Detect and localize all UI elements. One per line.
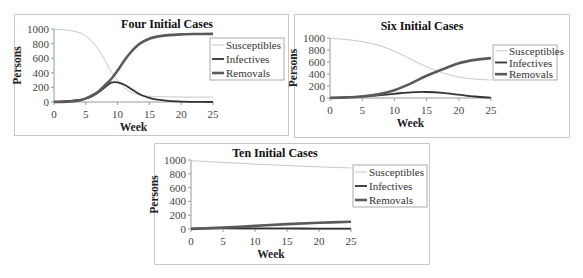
x-tick-label: 5: [220, 235, 226, 247]
x-tick-label: 25: [346, 235, 358, 247]
chart-ten-initial-cases: Ten Initial Cases02004006008001000051015…: [154, 143, 430, 265]
x-tick-label: 10: [250, 235, 262, 247]
y-tick-label: 200: [170, 209, 187, 221]
y-axis-title: Persons: [148, 175, 160, 214]
x-tick-label: 20: [314, 235, 326, 247]
y-tick-label: 800: [170, 168, 187, 180]
x-tick-label: 0: [188, 235, 194, 247]
legend-label: Removals: [369, 194, 413, 206]
y-tick-label: 0: [181, 223, 187, 235]
y-tick-label: 1000: [164, 154, 187, 166]
legend-label: Susceptibles: [369, 166, 424, 178]
legend-label: Infectives: [369, 180, 412, 192]
series-line-susceptibles: [191, 161, 351, 168]
chart-title: Ten Initial Cases: [232, 146, 318, 160]
y-tick-label: 400: [170, 195, 187, 207]
y-tick-label: 600: [170, 182, 187, 194]
x-tick-label: 15: [282, 235, 294, 247]
x-axis-title: Week: [257, 248, 285, 260]
